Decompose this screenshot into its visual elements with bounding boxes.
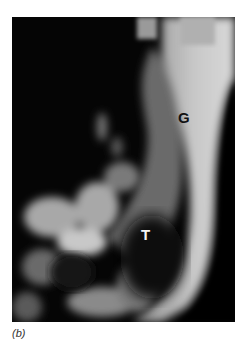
label-g: G [178, 110, 190, 125]
label-t: T [141, 227, 150, 242]
panel-caption: (b) [12, 327, 25, 339]
medical-scan-image [12, 17, 235, 322]
